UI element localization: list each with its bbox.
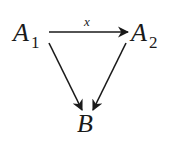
node-a1-base: A xyxy=(13,18,29,47)
edge-label-x: x xyxy=(84,15,90,28)
commutative-diagram: A1 x A2 B xyxy=(0,0,169,146)
node-a2-subscript: 2 xyxy=(149,33,158,52)
arrow-a2-to-b xyxy=(93,43,126,110)
node-a2: A2 xyxy=(131,20,155,46)
arrow-a1-to-b xyxy=(49,43,82,110)
node-b-base: B xyxy=(77,109,93,138)
node-a2-base: A xyxy=(131,18,147,47)
node-a1-subscript: 1 xyxy=(31,33,40,52)
node-b: B xyxy=(77,111,93,137)
node-a1: A1 xyxy=(13,20,37,46)
